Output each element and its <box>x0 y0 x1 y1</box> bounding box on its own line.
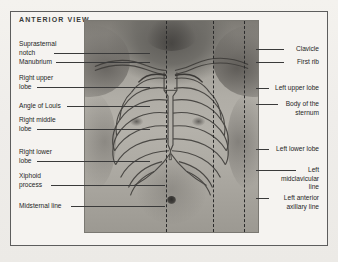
label-suprasternal-notch: Suprasternal notch <box>19 40 56 57</box>
label-midsternal-line: Midsternal line <box>19 202 62 211</box>
label-left-upper-lobe: Left upper lobe <box>275 84 319 93</box>
label-first-rib: First rib <box>297 58 319 67</box>
leader-suprasternal-notch <box>54 53 150 54</box>
label-left-lower-lobe: Left lower lobe <box>276 145 319 154</box>
view-title: ANTERIOR VIEW <box>19 16 90 23</box>
leader-clavicle <box>256 49 284 50</box>
leader-xiphoid-process <box>51 185 165 186</box>
label-manubrium: Manubrium <box>19 58 52 67</box>
anterior-axillary-dashed-line <box>244 21 245 232</box>
leader-first-rib <box>256 62 284 63</box>
leader-left-upper-lobe <box>256 88 269 89</box>
figure-root: ANTERIOR VIEW <box>0 0 338 262</box>
leader-left-lower-lobe <box>256 149 269 150</box>
leader-left-midclavicular-line <box>256 170 296 171</box>
label-right-middle-lobe: Right middle lobe <box>19 116 56 133</box>
label-right-upper-lobe: Right upper lobe <box>19 74 53 91</box>
leader-right-lower-lobe <box>37 161 150 162</box>
label-right-lower-lobe: Right lower lobe <box>19 148 52 165</box>
label-xiphoid-process: Xiphoid process <box>19 172 42 189</box>
midclavicular-dashed-line <box>213 21 214 232</box>
leader-midsternal-line <box>71 206 165 207</box>
leader-body-of-the-sternum <box>256 104 278 105</box>
label-angle-of-louis: Angle of Louis <box>19 102 61 111</box>
leader-right-upper-lobe <box>37 87 150 88</box>
leader-right-middle-lobe <box>37 129 150 130</box>
label-body-of-the-sternum: Body of the sternum <box>286 100 319 117</box>
leader-manubrium <box>56 62 150 63</box>
leader-left-anterior-axillary-line <box>256 198 269 199</box>
label-left-anterior-axillary-line: Left anterior axillary line <box>284 194 319 211</box>
leader-angle-of-louis <box>67 106 150 107</box>
label-clavicle: Clavicle <box>296 45 319 54</box>
midsternal-dashed-line <box>166 21 167 232</box>
